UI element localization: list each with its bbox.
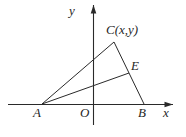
origin-label: O bbox=[80, 105, 90, 120]
vertex-b-label: B bbox=[138, 105, 146, 120]
figure-svg: y x O A B C(x,y) E bbox=[0, 0, 186, 137]
segment-ac bbox=[42, 42, 114, 104]
y-axis-label: y bbox=[67, 3, 75, 18]
geometry-figure: y x O A B C(x,y) E bbox=[0, 0, 186, 137]
segment-ae bbox=[42, 73, 129, 104]
vertex-a-label: A bbox=[32, 105, 41, 120]
y-axis-arrowhead bbox=[91, 5, 97, 14]
x-axis-label: x bbox=[162, 105, 169, 120]
vertex-c-label: C(x,y) bbox=[106, 22, 138, 37]
point-e-label: E bbox=[130, 58, 139, 73]
